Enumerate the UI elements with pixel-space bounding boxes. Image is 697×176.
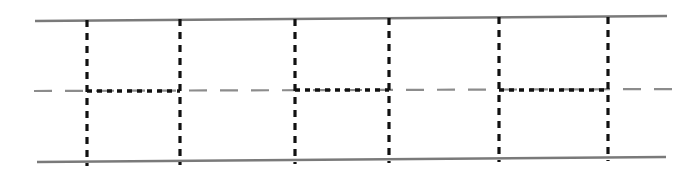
technical-line-diagram (0, 0, 697, 176)
diagram-background (0, 0, 697, 176)
diagram-canvas (0, 0, 697, 176)
